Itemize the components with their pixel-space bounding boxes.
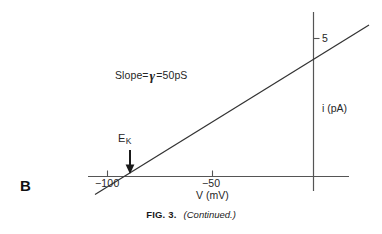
ek-reversal-label: EK: [118, 133, 132, 146]
ek-subscript: K: [125, 136, 131, 146]
panel-letter: B: [20, 178, 31, 193]
x-axis-title: V (mV): [196, 190, 229, 201]
figure-panel-b: −100 −50 5 V (mV) i (pA) Slope=γ=50pS EK…: [0, 0, 382, 234]
figure-caption: FIG. 3.(Continued.): [0, 209, 382, 220]
gamma-symbol: γ: [149, 68, 157, 83]
slope-prefix-text: Slope=: [115, 69, 149, 81]
slope-annotation: Slope=γ=50pS: [115, 68, 187, 82]
y-tick-label-5: 5: [322, 33, 328, 44]
caption-continued-note: (Continued.): [177, 209, 236, 220]
caption-figure-number: FIG. 3.: [146, 209, 176, 220]
y-axis-title: i (pA): [322, 103, 347, 114]
slope-value-text: =50pS: [156, 69, 187, 81]
x-tick-label-minus50: −50: [202, 178, 220, 189]
x-tick-label-minus100: −100: [95, 178, 119, 189]
